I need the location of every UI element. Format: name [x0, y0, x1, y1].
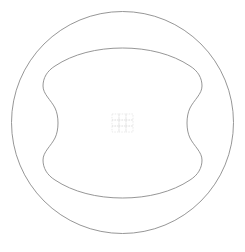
figure-canvas: Leather hide pattern inside circular die…: [0, 0, 245, 252]
shape-outline-figure: Leather hide pattern inside circular die…: [0, 0, 245, 252]
